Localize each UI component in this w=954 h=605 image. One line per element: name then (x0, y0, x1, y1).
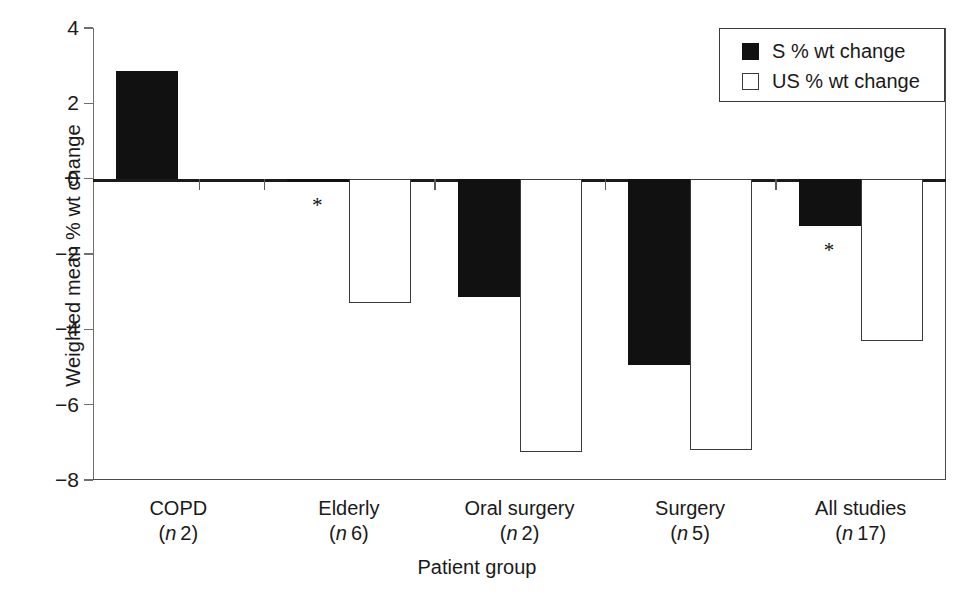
group-name: Elderly (254, 496, 444, 521)
y-axis-tick-label: 4 (19, 17, 79, 38)
legend-item-us: US % wt change (742, 66, 944, 96)
x-axis-tick-minor (199, 179, 201, 190)
x-axis-title: Patient group (0, 556, 954, 579)
legend-swatch-filled-square-icon (742, 43, 759, 60)
bar-s-surgery (628, 179, 690, 365)
legend-item-s: S % wt change (742, 36, 944, 66)
x-axis-tick (434, 179, 436, 190)
x-axis-tick (264, 179, 266, 190)
y-axis-tick-label: 2 (19, 92, 79, 113)
y-axis-tick (84, 253, 93, 255)
bar-s-oral-surgery (458, 179, 520, 298)
y-axis-tick (84, 27, 93, 29)
group-sample-size: (n 5) (595, 521, 785, 546)
x-axis-tick (605, 179, 607, 190)
x-axis-group-elderly: Elderly(n 6) (254, 496, 444, 546)
group-sample-size: (n 2) (83, 521, 273, 546)
significance-asterisk: * (312, 195, 323, 216)
group-sample-size: (n 2) (425, 521, 615, 546)
group-name: All studies (766, 496, 954, 521)
y-axis-tick (84, 178, 93, 180)
y-axis-line (93, 28, 94, 480)
significance-asterisk: * (824, 240, 835, 261)
bottom-axis-line (93, 479, 946, 481)
y-axis-tick-label: 0 (19, 168, 79, 189)
group-name: COPD (83, 496, 273, 521)
x-axis-group-oral-surgery: Oral surgery(n 2) (425, 496, 615, 546)
bar-s-all-studies (799, 179, 861, 226)
y-axis-tick-label: −2 (19, 243, 79, 264)
y-axis-tick (84, 329, 93, 331)
group-name: Surgery (595, 496, 785, 521)
x-axis-group-all-studies: All studies(n 17) (766, 496, 954, 546)
group-sample-size: (n 6) (254, 521, 444, 546)
bar-us-all-studies (861, 179, 923, 341)
y-axis-tick (84, 479, 93, 481)
y-axis-tick (84, 404, 93, 406)
chart-legend: S % wt change US % wt change (719, 28, 945, 102)
bar-us-oral-surgery (520, 179, 582, 452)
x-axis-group-copd: COPD(n 2) (83, 496, 273, 546)
figure-bar-chart: Weighted mean % wt change 420−2−4−6−8 **… (0, 0, 954, 605)
y-axis-tick-label: −4 (19, 318, 79, 339)
y-axis-tick-label: −8 (19, 469, 79, 490)
legend-label-us: US % wt change (772, 70, 920, 93)
bar-us-elderly (349, 179, 411, 303)
bar-s-copd (116, 71, 178, 178)
bar-us-surgery (690, 179, 752, 450)
bar-s-elderly (287, 179, 349, 182)
x-axis-group-surgery: Surgery(n 5) (595, 496, 785, 546)
group-sample-size: (n 17) (766, 521, 954, 546)
y-axis-tick-label: −6 (19, 394, 79, 415)
y-axis-tick (84, 103, 93, 105)
group-name: Oral surgery (425, 496, 615, 521)
legend-label-s: S % wt change (772, 40, 905, 63)
legend-swatch-open-square-icon (742, 73, 759, 90)
x-axis-tick (775, 179, 777, 190)
